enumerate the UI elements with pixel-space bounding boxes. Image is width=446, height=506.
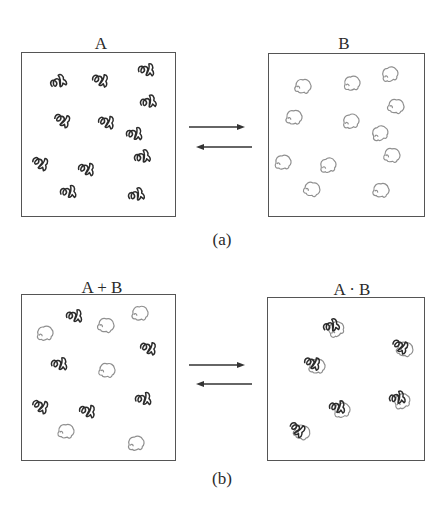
- protein-a-icon: [48, 353, 70, 375]
- protein-b-icon: [369, 122, 391, 144]
- protein-b-icon: [96, 359, 118, 381]
- protein-a-icon: [123, 123, 145, 145]
- reverse-arrow-icon: [196, 381, 252, 387]
- protein-a-icon: [95, 111, 117, 133]
- protein-b-icon: [34, 322, 56, 344]
- protein-b-icon: [341, 72, 363, 94]
- label-species-b: B: [284, 35, 404, 52]
- equilibrium-arrows-a: [185, 118, 257, 154]
- protein-b-icon: [340, 110, 362, 132]
- protein-a-icon: [47, 71, 69, 93]
- protein-a-icon: [131, 146, 153, 168]
- protein-a-icon: [29, 395, 51, 417]
- protein-b-icon: [301, 178, 323, 200]
- protein-a-icon: [89, 69, 111, 91]
- complex-a-part-icon: [386, 387, 408, 409]
- protein-a-icon: [29, 152, 51, 174]
- complex-a-part-icon: [286, 418, 308, 440]
- protein-b-icon: [129, 302, 151, 324]
- protein-b-icon: [272, 151, 294, 173]
- protein-b-icon: [379, 63, 401, 85]
- protein-a-icon: [75, 158, 97, 180]
- protein-b-icon: [385, 95, 407, 117]
- protein-a-icon: [132, 388, 154, 410]
- protein-a-icon: [137, 91, 159, 113]
- protein-a-icon: [125, 184, 147, 206]
- protein-a-icon: [135, 59, 157, 81]
- forward-arrow-icon: [189, 362, 245, 368]
- protein-b-icon: [317, 154, 339, 176]
- reverse-arrow-icon: [196, 144, 252, 150]
- complex-a-part-icon: [320, 315, 342, 337]
- protein-b-icon: [292, 75, 314, 97]
- protein-b-icon: [370, 179, 392, 201]
- protein-b-icon: [55, 420, 77, 442]
- forward-arrow-icon: [189, 124, 245, 130]
- protein-a-icon: [57, 181, 79, 203]
- protein-b-icon: [95, 314, 117, 336]
- protein-a-icon: [137, 337, 159, 359]
- protein-a-icon: [76, 400, 98, 422]
- label-species-a: A: [41, 35, 161, 52]
- caption-part-a: (a): [192, 231, 252, 248]
- protein-a-icon: [51, 109, 73, 131]
- protein-b-icon: [283, 106, 305, 128]
- label-complex-ab: A · B: [292, 281, 412, 298]
- equilibrium-arrows-b: [185, 356, 257, 392]
- protein-b-icon: [125, 432, 147, 454]
- protein-a-icon: [63, 305, 85, 327]
- caption-part-b: (b): [192, 470, 252, 487]
- protein-b-icon: [381, 144, 403, 166]
- complex-a-part-icon: [326, 396, 348, 418]
- complex-a-part-icon: [389, 335, 411, 357]
- complex-a-part-icon: [301, 352, 323, 374]
